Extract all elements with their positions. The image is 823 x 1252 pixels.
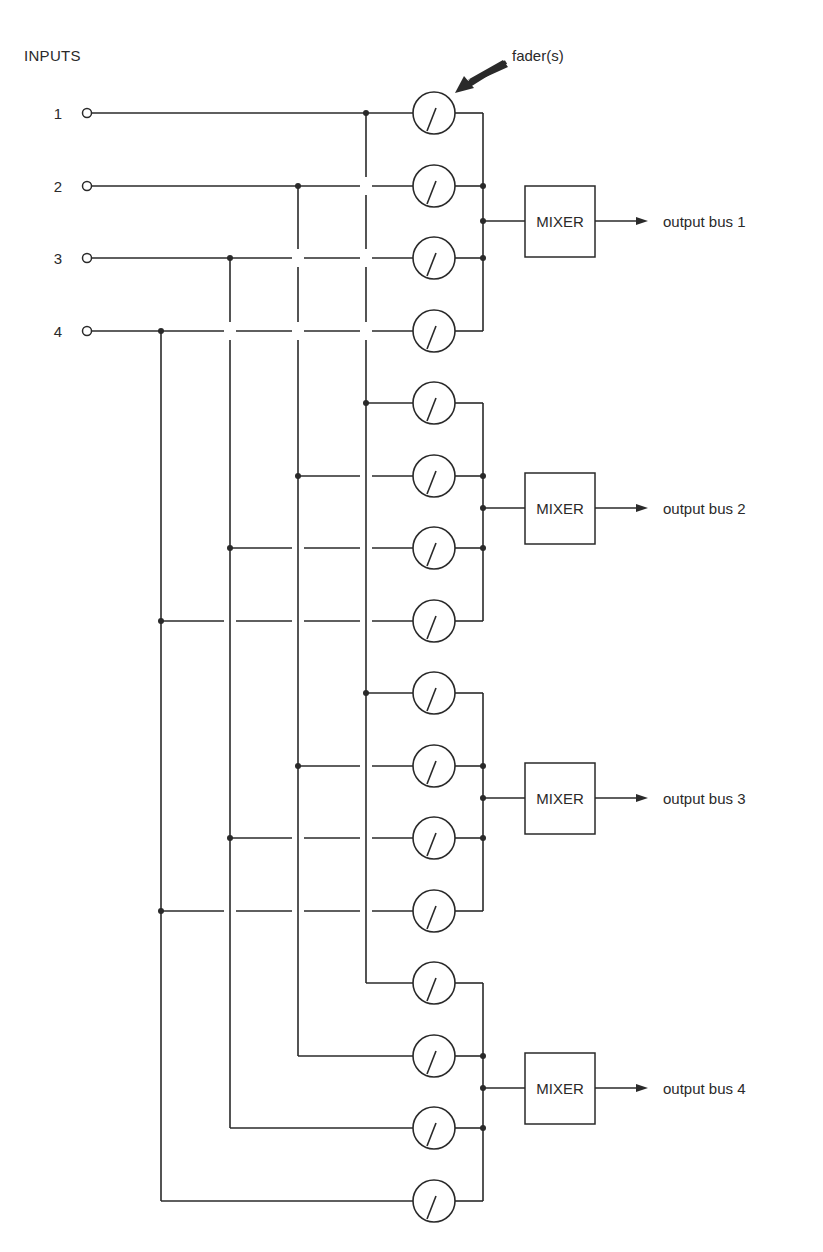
mixer-3-label: MIXER [524, 791, 596, 806]
junction-dot [158, 618, 164, 624]
input-2-label: 2 [48, 179, 62, 194]
mixer-1-label: MIXER [524, 214, 596, 229]
input-terminal-icon [83, 182, 92, 191]
output-arrow-icon [636, 1084, 648, 1092]
input-terminal-icon [83, 109, 92, 118]
output-bus-4-label: output bus 4 [663, 1081, 746, 1096]
mixer-4-label: MIXER [524, 1081, 596, 1096]
output-bus-1-label: output bus 1 [663, 214, 746, 229]
fader-label: fader(s) [512, 48, 564, 63]
junction-dot [295, 473, 301, 479]
output-arrow-icon [636, 504, 648, 512]
mixer-2-label: MIXER [524, 501, 596, 516]
junction-dot [158, 908, 164, 914]
junction-dot [363, 400, 369, 406]
mixer-routing-diagram [0, 0, 823, 1252]
input-terminal-icon [83, 327, 92, 336]
output-arrow-icon [636, 794, 648, 802]
input-3-label: 3 [48, 251, 62, 266]
output-arrow-icon [636, 217, 648, 225]
junction-dot [227, 545, 233, 551]
output-bus-2-label: output bus 2 [663, 501, 746, 516]
input-4-label: 4 [48, 324, 62, 339]
junction-dot [295, 763, 301, 769]
inputs-title: INPUTS [24, 48, 81, 63]
input-1-label: 1 [48, 106, 62, 121]
input-terminal-icon [83, 254, 92, 263]
fader-pointer-arrow-shaft [468, 62, 506, 86]
junction-dot [227, 835, 233, 841]
output-bus-3-label: output bus 3 [663, 791, 746, 806]
junction-dot [363, 690, 369, 696]
